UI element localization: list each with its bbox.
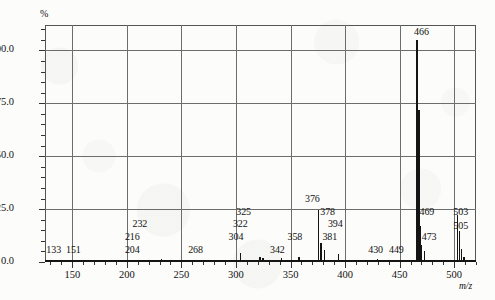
x-tick-minor — [476, 262, 477, 265]
peak-bar — [320, 243, 321, 262]
x-tick-minor — [389, 262, 390, 265]
x-tick-minor — [116, 262, 117, 265]
peak-label: 473 — [422, 231, 437, 242]
x-tick-minor — [203, 262, 204, 265]
x-tick-minor — [61, 262, 62, 265]
x-tick-minor — [225, 262, 226, 265]
y-tick-label: 0.0 — [1, 255, 14, 266]
x-tick-minor — [465, 262, 466, 265]
peak-label: 304 — [229, 231, 244, 242]
peak-label: 204 — [125, 244, 140, 255]
y-tick-label: 25.0 — [0, 202, 14, 213]
peak-label: 376 — [305, 193, 320, 204]
peak-bar — [130, 260, 131, 262]
x-tick-label: 500 — [446, 269, 462, 280]
x-tick-minor — [411, 262, 412, 265]
peak-bar — [421, 245, 422, 262]
peak-bar — [161, 259, 162, 262]
x-tick-minor — [247, 262, 248, 265]
y-tick-label: 50.0 — [0, 149, 14, 160]
peak-bar — [200, 261, 201, 262]
peak-bar — [424, 251, 425, 262]
peak-label: 505 — [453, 220, 468, 231]
peak-bar — [262, 258, 263, 262]
peak-bar — [298, 257, 299, 262]
x-tick-minor — [83, 262, 84, 265]
peak-label: 216 — [125, 231, 140, 242]
peak-bar — [53, 261, 54, 262]
peak-bar — [73, 261, 74, 262]
peak-label: 322 — [233, 218, 248, 229]
x-tick-label: 150 — [64, 269, 80, 280]
peak-bar — [338, 254, 339, 262]
x-axis-title: m/z — [459, 281, 472, 291]
x-tick-label: 200 — [119, 269, 135, 280]
x-tick-minor — [421, 262, 422, 265]
x-tick-minor — [138, 262, 139, 265]
x-tick-minor — [301, 262, 302, 265]
peak-label: 469 — [420, 206, 435, 217]
x-tick-minor — [443, 262, 444, 265]
x-tick-major — [72, 262, 73, 268]
x-tick-label: 450 — [392, 269, 408, 280]
peak-bar — [143, 260, 144, 262]
peak-label: 503 — [453, 206, 468, 217]
peak-bar — [259, 257, 260, 262]
x-tick-minor — [94, 262, 95, 265]
x-tick-minor — [432, 262, 433, 265]
x-tick-major — [454, 262, 455, 268]
peak-label: 381 — [322, 231, 337, 242]
x-tick-label: 400 — [337, 269, 353, 280]
x-tick-major — [181, 262, 182, 268]
x-tick-minor — [323, 262, 324, 265]
x-tick-label: 300 — [228, 269, 244, 280]
peak-bar — [461, 249, 462, 262]
x-tick-minor — [50, 262, 51, 265]
peak-label: 232 — [133, 218, 148, 229]
peak-label: 378 — [320, 206, 335, 217]
x-tick-major — [345, 262, 346, 268]
x-tick-minor — [160, 262, 161, 265]
x-tick-minor — [312, 262, 313, 265]
x-tick-minor — [356, 262, 357, 265]
peak-bar — [377, 259, 378, 262]
peak-label: 394 — [328, 218, 343, 229]
peak-label: 268 — [188, 244, 203, 255]
x-tick-minor — [367, 262, 368, 265]
peak-label: 151 — [66, 244, 81, 255]
x-tick-minor — [214, 262, 215, 265]
peak-label: 133 — [46, 244, 61, 255]
x-tick-major — [400, 262, 401, 268]
peak-label: 358 — [288, 231, 303, 242]
peak-label: 342 — [270, 244, 285, 255]
x-tick-minor — [334, 262, 335, 265]
y-tick-major — [39, 262, 45, 263]
peak-label: 466 — [414, 26, 429, 37]
x-tick-label: 250 — [174, 269, 190, 280]
x-tick-minor — [269, 262, 270, 265]
peak-bar — [324, 250, 325, 262]
x-tick-minor — [149, 262, 150, 265]
y-tick-label: 75.0 — [0, 96, 14, 107]
peak-bar — [318, 210, 319, 262]
y-tick-label: 100.0 — [0, 43, 14, 54]
x-tick-minor — [378, 262, 379, 265]
x-tick-minor — [170, 262, 171, 265]
peak-bar — [398, 260, 399, 262]
x-tick-label: 350 — [283, 269, 299, 280]
x-tick-minor — [105, 262, 106, 265]
peak-bar — [240, 253, 241, 262]
x-tick-minor — [280, 262, 281, 265]
x-tick-major — [127, 262, 128, 268]
peak-label: 325 — [236, 206, 251, 217]
x-tick-minor — [258, 262, 259, 265]
peak-bar — [459, 231, 460, 262]
x-tick-minor — [192, 262, 193, 265]
peak-bar — [281, 258, 282, 262]
mass-spectrum-figure: % 0.025.050.075.0100.0 15020025030035040… — [0, 0, 495, 300]
x-tick-major — [236, 262, 237, 268]
x-tick-major — [291, 262, 292, 268]
spectrum-peaks — [45, 25, 476, 262]
peak-label: 430 — [368, 244, 383, 255]
peak-label: 449 — [389, 244, 404, 255]
